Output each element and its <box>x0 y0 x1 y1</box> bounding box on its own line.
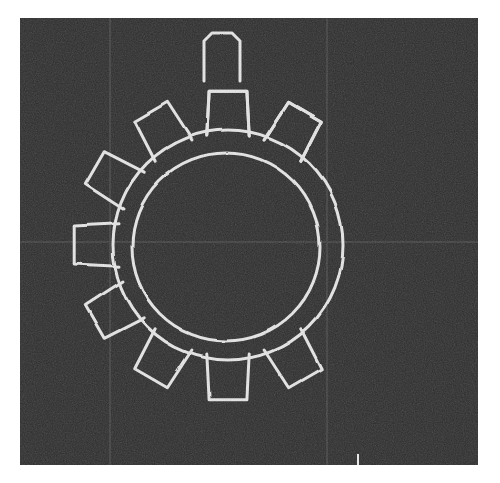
film-grain <box>20 18 478 465</box>
gear-diagram-svg <box>20 18 478 465</box>
baseline-tick-mark <box>357 454 359 465</box>
drawing-panel <box>20 18 478 465</box>
figure-canvas <box>0 0 500 483</box>
